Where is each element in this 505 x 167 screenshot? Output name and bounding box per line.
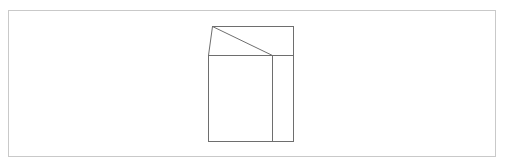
line-drawing-svg (0, 0, 505, 167)
side-face (272, 55, 293, 141)
front-face (208, 55, 272, 141)
screenshot-canvas (0, 0, 505, 167)
box-faces-group (208, 26, 293, 141)
